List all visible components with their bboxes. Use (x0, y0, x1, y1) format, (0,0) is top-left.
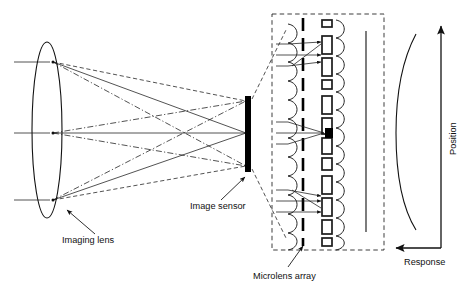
callout-leaders (67, 177, 303, 267)
position-axis-label: Position (448, 122, 458, 155)
detail-leader-lines (252, 30, 286, 238)
microlens-bumps (288, 24, 297, 250)
imaging-lens-leader (67, 210, 95, 234)
response-position-plot (396, 26, 441, 248)
detail-rays-bottom-group (276, 190, 321, 212)
microlens-bumps-right (336, 20, 344, 250)
microlens-array-label: Microlens array (253, 271, 316, 281)
response-curve (396, 34, 416, 230)
image-sensor-label: Image sensor (190, 201, 246, 211)
imaging-lens-label: Imaging lens (62, 235, 114, 245)
response-axis-label: Response (404, 257, 445, 267)
image-sensor-leader (221, 177, 245, 200)
optical-diagram-figure: Imaging lens Image sensor Microlens arra… (0, 0, 467, 288)
ray-bundle-middle-node (53, 101, 246, 166)
image-sensor (245, 96, 251, 172)
imaging-lens (32, 42, 62, 218)
detail-rays-top-group (276, 42, 321, 66)
detail-rays-middle-group (276, 122, 324, 144)
lens-node-markers (52, 61, 55, 202)
